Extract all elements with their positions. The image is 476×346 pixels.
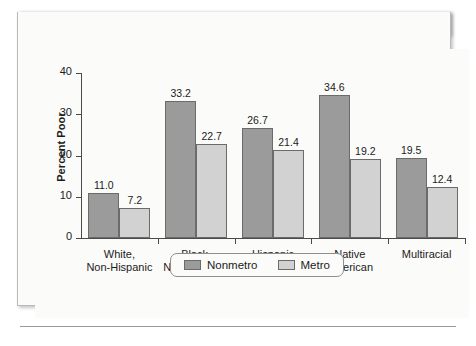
bar-value-label: 12.4 xyxy=(421,173,464,185)
bar-value-label: 11.0 xyxy=(82,179,125,191)
footer-divider xyxy=(20,326,456,327)
chart-legend: NonmetroMetro xyxy=(170,253,344,277)
y-tick-label: 40 xyxy=(60,65,72,77)
chart-plot-region: Percent Poor 010203040 11.07.233.222.726… xyxy=(35,49,469,318)
x-tick xyxy=(235,239,236,244)
bar-value-label: 21.4 xyxy=(267,136,310,148)
legend-item-metro[interactable]: Metro xyxy=(278,259,330,271)
exhibit-card: Percent Poor 010203040 11.07.233.222.726… xyxy=(17,12,451,306)
bar-metro-0 xyxy=(119,208,150,238)
legend-swatch-icon xyxy=(184,260,201,270)
x-tick xyxy=(465,239,466,244)
bar-nonmetro-1 xyxy=(165,101,196,238)
bar-nonmetro-3 xyxy=(319,95,350,238)
bar-value-label: 26.7 xyxy=(236,114,279,126)
legend-label: Nonmetro xyxy=(207,259,258,271)
legend-swatch-icon xyxy=(278,260,295,270)
y-tick: 0 xyxy=(76,238,81,239)
x-axis-line xyxy=(81,238,466,239)
y-tick-label: 10 xyxy=(60,189,72,201)
bar-value-label: 7.2 xyxy=(113,194,156,206)
bar-value-label: 22.7 xyxy=(190,130,233,142)
y-tick: 40 xyxy=(76,73,81,74)
y-tick-label: 0 xyxy=(66,230,72,242)
bar-metro-1 xyxy=(196,144,227,238)
legend-item-nonmetro[interactable]: Nonmetro xyxy=(184,259,258,271)
y-tick: 10 xyxy=(76,197,81,198)
bar-nonmetro-4 xyxy=(396,158,427,238)
x-tick xyxy=(311,239,312,244)
category-label: Multiracial xyxy=(380,248,473,261)
legend-label: Metro xyxy=(301,259,330,271)
bar-value-label: 19.5 xyxy=(390,144,433,156)
bar-metro-4 xyxy=(427,187,458,238)
y-tick-label: 20 xyxy=(60,148,72,160)
chart-axes: 010203040 11.07.233.222.726.721.434.619.… xyxy=(81,73,465,238)
bar-metro-2 xyxy=(273,150,304,238)
y-axis-line xyxy=(81,73,82,239)
y-tick-label: 30 xyxy=(60,106,72,118)
x-tick xyxy=(388,239,389,244)
y-tick: 20 xyxy=(76,156,81,157)
bar-value-label: 33.2 xyxy=(159,87,202,99)
y-tick: 30 xyxy=(76,114,81,115)
x-tick xyxy=(158,239,159,244)
bar-metro-3 xyxy=(350,159,381,238)
bar-value-label: 34.6 xyxy=(313,81,356,93)
bar-value-label: 19.2 xyxy=(344,145,387,157)
